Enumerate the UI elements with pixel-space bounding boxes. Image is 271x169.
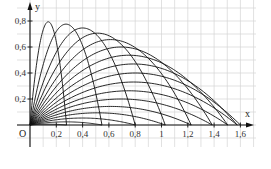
trajectory-35deg <box>30 91 228 125</box>
x-tick-label: 1,2 <box>182 129 193 139</box>
chart: 0,20,40,60,811,21,41,60,20,40,60,8 x y O <box>0 0 271 169</box>
x-tick-label: 1,6 <box>235 129 247 139</box>
y-axis-label: y <box>35 1 40 12</box>
x-tick-label: 1,4 <box>208 129 220 139</box>
x-tick-label: 0,4 <box>77 129 89 139</box>
x-tick-label: 0,6 <box>103 129 115 139</box>
trajectory-55deg <box>30 55 228 125</box>
x-axis-label: x <box>245 108 250 119</box>
y-axis-arrow-icon <box>28 2 33 10</box>
y-tick-label: 0,6 <box>15 42 27 52</box>
y-tick-label: 0,8 <box>15 16 27 26</box>
origin-label: O <box>19 128 26 139</box>
y-tick-label: 0,4 <box>15 68 27 78</box>
x-axis-arrow-icon <box>246 123 254 128</box>
y-tick-label: 0,2 <box>15 94 26 104</box>
x-tick-label: 0,2 <box>51 129 62 139</box>
x-tick-label: 1 <box>159 129 164 139</box>
x-tick-label: 0,8 <box>130 129 142 139</box>
